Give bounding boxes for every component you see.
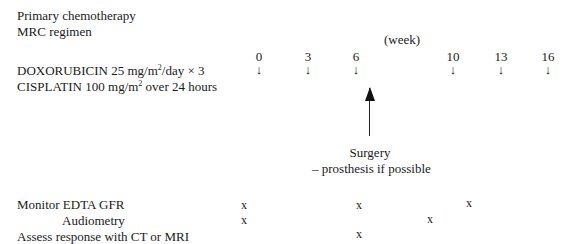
drug-name: CISPLATIN [17, 79, 82, 94]
assess-response-label: Assess response with CT or MRI [17, 230, 189, 243]
drug-dose-suffix: /day × 3 [162, 63, 205, 78]
mark-edta-week-6: x [356, 199, 362, 211]
down-arrow-icon: ↓ [247, 63, 271, 76]
down-arrow-icon: ↓ [441, 63, 465, 76]
drug-dose: 100 mg/m [85, 79, 138, 94]
down-arrow-icon: ↓ [536, 63, 560, 76]
drug-dose-suffix: over 24 hours [142, 79, 217, 94]
drug-name: DOXORUBICIN [17, 63, 108, 78]
title-line-1: Primary chemotherapy [17, 9, 136, 22]
mark-audiometry-week-0: x [241, 214, 247, 226]
up-arrow-icon [365, 87, 375, 101]
down-arrow-icon: ↓ [344, 63, 368, 76]
down-arrow-icon: ↓ [489, 63, 513, 76]
mark-assess-week-6: x [356, 228, 362, 240]
surgery-label: Surgery [340, 146, 400, 159]
surgery-note: – prosthesis if possible [312, 162, 431, 175]
title-line-2: MRC regimen [17, 25, 92, 38]
mark-audiometry-week-10: x [427, 213, 433, 225]
mark-edta-week-0: x [241, 199, 247, 211]
mark-edta-week-13: x [466, 197, 472, 209]
down-arrow-icon: ↓ [296, 63, 320, 76]
drug-cisplatin: CISPLATIN 100 mg/m2 over 24 hours [17, 80, 217, 93]
drug-dose: 25 mg/m [111, 63, 158, 78]
week-unit-label: (week) [384, 33, 420, 46]
drug-doxorubicin: DOXORUBICIN 25 mg/m2/day × 3 [17, 64, 205, 77]
monitor-edta-gfr-label: Monitor EDTA GFR [17, 198, 124, 211]
audiometry-label: Audiometry [62, 214, 125, 227]
